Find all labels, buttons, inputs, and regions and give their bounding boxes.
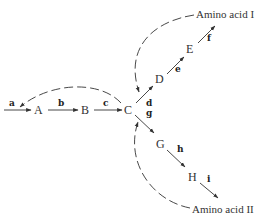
arrow-i: [200, 183, 218, 198]
node-E: E: [186, 42, 193, 56]
node-D: D: [155, 72, 164, 86]
node-A: A: [34, 103, 43, 117]
enzyme-label-b: b: [58, 98, 64, 108]
feedback-arc-aa2-to-g: [135, 122, 190, 208]
enzyme-label-a: a: [9, 98, 15, 108]
enzyme-label-f: f: [207, 33, 212, 43]
enzyme-label-d: d: [146, 98, 153, 108]
product-amino-acid-2: Amino acid II: [192, 203, 254, 215]
node-B: B: [81, 103, 89, 117]
enzyme-label-i: i: [207, 174, 211, 184]
node-H: H: [188, 170, 197, 184]
product-amino-acid-1: Amino acid I: [196, 8, 254, 20]
enzyme-label-e: e: [175, 64, 181, 74]
enzyme-label-g: g: [146, 108, 153, 118]
node-G: G: [156, 137, 165, 151]
node-C: C: [124, 103, 132, 117]
enzyme-label-h: h: [177, 144, 184, 154]
pathway-diagram: a A b B c C d D e E f Amino acid I g G h…: [0, 0, 255, 217]
enzyme-label-c: c: [103, 98, 109, 108]
